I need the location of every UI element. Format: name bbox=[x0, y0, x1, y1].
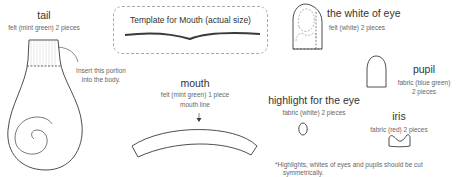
pupil-material-line2: 2 pieces bbox=[412, 88, 436, 96]
highlight-shape bbox=[299, 123, 307, 135]
iris-title: iris bbox=[392, 110, 405, 122]
mouth-template-box: Template for Mouth (actual size) bbox=[113, 6, 268, 54]
white-of-eye-title: the white of eye bbox=[327, 7, 401, 19]
tail-shape bbox=[8, 40, 82, 170]
pupil-shape bbox=[367, 56, 386, 87]
mouth-line-label: mouth line bbox=[180, 101, 210, 109]
tail-material: felt (mint green) 2 pieces bbox=[8, 24, 80, 32]
mouth-material: felt (mint green) 1 piece bbox=[161, 91, 229, 99]
footnote-line2: symmetrically. bbox=[283, 169, 324, 177]
template-title: Template for Mouth (actual size) bbox=[114, 15, 267, 25]
iris-shape bbox=[389, 135, 410, 147]
white-of-eye-shape bbox=[293, 4, 322, 49]
tail-note-line1: Insert this portion bbox=[76, 67, 126, 75]
mouth-title: mouth bbox=[180, 77, 209, 89]
highlight-title: highlight for the eye bbox=[268, 94, 360, 106]
tail-note-line2: into the body. bbox=[82, 76, 121, 84]
white-of-eye-material: felt (white) 2 pieces bbox=[329, 24, 385, 32]
highlight-material: fabric (white) 2 pieces bbox=[282, 109, 345, 117]
pupil-title: pupil bbox=[413, 63, 435, 75]
mouth-shape bbox=[132, 113, 257, 157]
tail-title: tail bbox=[37, 9, 50, 21]
pupil-material-line1: fabric (blue green) bbox=[398, 79, 451, 87]
footnote-line1: *Highlights, whites of eyes and pupils s… bbox=[275, 161, 423, 169]
iris-material: fabric (red) 2 pieces bbox=[370, 126, 427, 134]
